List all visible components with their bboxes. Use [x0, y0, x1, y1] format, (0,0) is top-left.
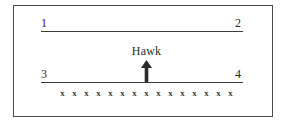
- top-line-left-label: 1: [41, 17, 47, 29]
- x-marker: x: [57, 88, 69, 98]
- x-marker: x: [189, 88, 201, 98]
- x-marker: x: [165, 88, 177, 98]
- x-marker: x: [153, 88, 165, 98]
- x-marker: x: [141, 88, 153, 98]
- top-horizontal-line: [41, 31, 243, 32]
- bottom-line-left-label: 3: [41, 68, 47, 80]
- x-marker: x: [201, 88, 213, 98]
- bottom-line-right-label: 4: [235, 68, 241, 80]
- bottom-horizontal-line: [41, 82, 243, 83]
- x-marker-row: xxxxxxxxxxxxxxx: [3, 88, 287, 98]
- x-marker: x: [117, 88, 129, 98]
- x-marker: x: [129, 88, 141, 98]
- x-marker: x: [93, 88, 105, 98]
- x-marker: x: [213, 88, 225, 98]
- x-marker: x: [69, 88, 81, 98]
- x-marker: x: [225, 88, 237, 98]
- hawk-label: Hawk: [3, 44, 287, 59]
- top-line-right-label: 2: [235, 17, 241, 29]
- figure-canvas: 1 2 Hawk 3 4 xxxxxxxxxxxxxxx: [0, 0, 287, 124]
- x-marker: x: [81, 88, 93, 98]
- x-marker: x: [177, 88, 189, 98]
- up-arrow-icon: [140, 60, 153, 82]
- x-marker: x: [105, 88, 117, 98]
